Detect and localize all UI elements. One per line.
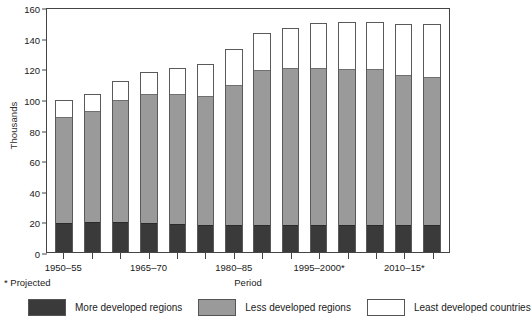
stacked-bar[interactable]: [338, 22, 356, 252]
stacked-bar[interactable]: [366, 22, 384, 252]
bar-segment-least-developed: [367, 23, 383, 69]
x-axis-tick-mark: [376, 253, 377, 259]
bar-slot: [163, 9, 191, 252]
bar-slot: [135, 9, 163, 252]
stacked-bar[interactable]: [84, 94, 102, 252]
bar-slot: [107, 9, 135, 252]
bar-segment-less-developed: [311, 68, 327, 224]
stacked-bar[interactable]: [112, 81, 130, 253]
bars-container: [47, 9, 449, 252]
y-axis-tick-mark: [42, 162, 47, 163]
stacked-bar[interactable]: [169, 68, 187, 252]
x-axis-tick-mark: [234, 253, 235, 259]
bar-segment-less-developed: [339, 69, 355, 225]
x-axis-tick-mark: [348, 253, 349, 259]
bar-slot: [78, 9, 106, 252]
x-axis-tick-mark: [205, 253, 206, 259]
bar-segment-least-developed: [141, 73, 157, 94]
bar-slot: [361, 9, 389, 252]
bar-segment-less-developed: [424, 77, 440, 225]
bar-segment-more-developed: [198, 225, 214, 252]
bar-slot: [248, 9, 276, 252]
bar-segment-least-developed: [424, 25, 440, 77]
y-axis-tick-mark: [42, 192, 47, 193]
legend-label: Least developed countries: [414, 302, 531, 313]
bar-segment-least-developed: [170, 69, 186, 93]
stacked-bar[interactable]: [395, 24, 413, 252]
bar-segment-less-developed: [254, 70, 270, 225]
x-axis-tick-mark: [404, 253, 405, 259]
x-axis-tick-label: 1950–55: [45, 262, 82, 273]
bar-segment-less-developed: [113, 100, 129, 223]
x-axis-tickmarks: [46, 253, 450, 261]
legend-label: More developed regions: [75, 302, 182, 313]
stacked-bar[interactable]: [140, 72, 158, 252]
bar-slot: [305, 9, 333, 252]
stacked-bar[interactable]: [282, 28, 300, 252]
bar-segment-more-developed: [170, 224, 186, 252]
bar-segment-less-developed: [141, 94, 157, 223]
bar-segment-less-developed: [56, 117, 72, 223]
bar-segment-less-developed: [85, 111, 101, 222]
bar-slot: [50, 9, 78, 252]
x-axis-tick-label: 2010–15*: [384, 262, 425, 273]
bar-segment-more-developed: [254, 225, 270, 252]
y-axis-tick-mark: [42, 9, 47, 10]
bar-slot: [333, 9, 361, 252]
bar-segment-more-developed: [339, 225, 355, 252]
bar-segment-least-developed: [113, 82, 129, 100]
bar-segment-more-developed: [141, 223, 157, 252]
stacked-bar[interactable]: [197, 64, 215, 252]
y-axis-tick-mark: [42, 100, 47, 101]
y-axis-tick-mark: [42, 39, 47, 40]
stacked-bar[interactable]: [225, 49, 243, 252]
stacked-bar[interactable]: [55, 100, 73, 252]
chart-legend: More developed regionsLess developed reg…: [28, 296, 466, 318]
x-axis-title: Period: [46, 277, 450, 288]
y-axis-title: Thousands: [8, 81, 19, 171]
x-axis-tick-mark: [63, 253, 64, 259]
bar-segment-more-developed: [283, 225, 299, 252]
stacked-bar[interactable]: [253, 33, 271, 252]
legend-swatch-least-icon: [367, 299, 405, 316]
bar-slot: [276, 9, 304, 252]
bar-segment-least-developed: [85, 95, 101, 112]
legend-label: Less developed regions: [245, 302, 351, 313]
bar-segment-more-developed: [226, 225, 242, 252]
bar-segment-least-developed: [226, 50, 242, 85]
bar-segment-more-developed: [113, 222, 129, 252]
bar-segment-more-developed: [85, 222, 101, 252]
stacked-bar[interactable]: [423, 24, 441, 252]
x-axis-tick-mark: [291, 253, 292, 259]
x-axis-tick-mark: [92, 253, 93, 259]
legend-swatch-more-icon: [28, 299, 66, 316]
legend-swatch-less-icon: [198, 299, 236, 316]
bar-segment-more-developed: [424, 225, 440, 252]
bar-segment-less-developed: [367, 69, 383, 225]
bar-slot: [418, 9, 446, 252]
bar-segment-more-developed: [311, 225, 327, 252]
legend-item[interactable]: More developed regions: [28, 299, 182, 316]
bar-segment-less-developed: [198, 96, 214, 225]
x-axis-tick-mark: [319, 253, 320, 259]
stacked-bar[interactable]: [310, 23, 328, 252]
bar-segment-less-developed: [170, 94, 186, 224]
x-axis-tick-mark: [433, 253, 434, 259]
x-axis-tick-label: 1980–85: [215, 262, 252, 273]
legend-item[interactable]: Less developed regions: [198, 299, 351, 316]
x-axis-tick-mark: [177, 253, 178, 259]
x-axis-tick-label: 1965–70: [130, 262, 167, 273]
y-axis-tick-mark: [42, 70, 47, 71]
bar-segment-least-developed: [56, 101, 72, 116]
bar-segment-more-developed: [367, 225, 383, 252]
bar-slot: [191, 9, 219, 252]
x-axis-tick-mark: [262, 253, 263, 259]
x-axis-tick-mark: [120, 253, 121, 259]
plot-area: 020406080100120140160: [46, 8, 450, 253]
projected-footnote: * Projected: [4, 277, 50, 288]
y-axis-tick-mark: [42, 131, 47, 132]
x-axis-labels: 1950–551965–701980–851995–2000*2010–15*: [46, 262, 450, 278]
legend-item[interactable]: Least developed countries: [367, 299, 531, 316]
bar-slot: [220, 9, 248, 252]
bar-segment-least-developed: [311, 24, 327, 68]
